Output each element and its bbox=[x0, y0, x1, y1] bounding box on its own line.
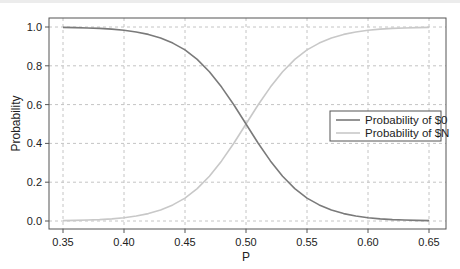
y-axis-label: Probability bbox=[9, 95, 23, 151]
legend: Probability of $0 Probability of $N bbox=[330, 111, 449, 141]
x-tick-label: 0.65 bbox=[418, 236, 439, 248]
x-tick-label: 0.60 bbox=[357, 236, 378, 248]
x-tick-label: 0.50 bbox=[235, 236, 256, 248]
y-tick-label: 0.2 bbox=[27, 176, 42, 188]
x-tick-label: 0.45 bbox=[174, 236, 195, 248]
x-tick-label: 0.40 bbox=[113, 236, 134, 248]
x-axis-label: P bbox=[242, 250, 250, 264]
chart-canvas: 0.350.400.450.500.550.600.65 0.00.20.40.… bbox=[0, 0, 460, 269]
y-tick-label: 0.8 bbox=[27, 60, 42, 72]
legend-label-prob-zero: Probability of $0 bbox=[365, 114, 447, 126]
y-tick-label: 0.0 bbox=[27, 215, 42, 227]
x-axis-ticks: 0.350.400.450.500.550.600.65 bbox=[52, 229, 439, 248]
legend-label-prob-n: Probability of $N bbox=[365, 127, 449, 139]
x-tick-label: 0.55 bbox=[296, 236, 317, 248]
y-tick-label: 1.0 bbox=[27, 21, 42, 33]
x-tick-label: 0.35 bbox=[52, 236, 73, 248]
y-tick-label: 0.4 bbox=[27, 137, 42, 149]
y-tick-label: 0.6 bbox=[27, 99, 42, 111]
y-axis-ticks: 0.00.20.40.60.81.0 bbox=[27, 21, 49, 227]
